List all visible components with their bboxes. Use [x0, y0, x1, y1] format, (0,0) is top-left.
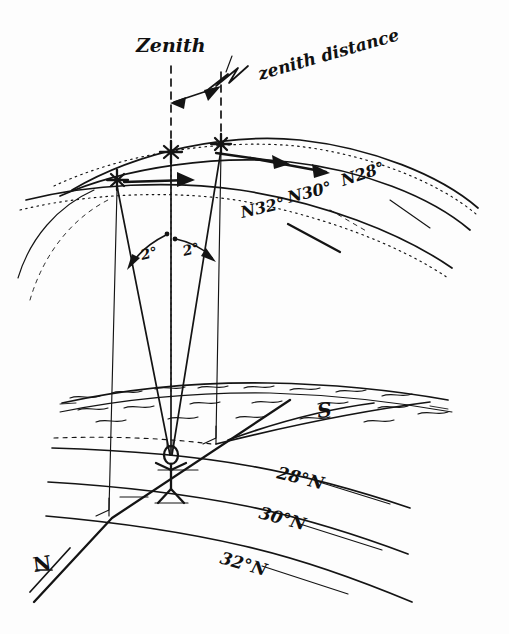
- label-declination-n28: N28°: [337, 158, 387, 190]
- label-latitude-32n: 32°N: [218, 548, 271, 581]
- motion-arrow-n28: [250, 158, 330, 178]
- south-sweep-line: [228, 403, 374, 440]
- label-angle-right: 2°: [180, 239, 201, 259]
- latitude-line-28: [52, 448, 410, 508]
- sight-line-to-star-n32: [117, 186, 170, 455]
- label-angle-left: 2°: [138, 243, 159, 263]
- diagram-canvas: Zenith zenith distance N28° N30° N32° 2°…: [0, 0, 509, 634]
- declination-arc-outer-left: [18, 190, 112, 300]
- vertical-reference-left: [96, 190, 117, 516]
- label-declination-n32: N32°: [238, 193, 287, 222]
- label-zenith: Zenith: [135, 34, 206, 56]
- arc-tail-n32: [288, 224, 340, 252]
- arc-tail-n28: [390, 200, 430, 228]
- label-zenith-distance-line1: zenith distance: [255, 24, 402, 84]
- vertical-reference-right: [203, 152, 221, 444]
- latitude-line-upper: [54, 437, 212, 444]
- label-north-compass: N: [31, 551, 52, 577]
- declination-arc-n32-lower: [20, 195, 448, 278]
- zenith-distance-leader: [205, 56, 248, 92]
- sight-line-to-star-n28: [172, 150, 221, 455]
- declination-arc-n32: [26, 185, 452, 268]
- zenith-distance-arrow: [170, 86, 221, 109]
- label-latitude-30n: 30°N: [257, 503, 310, 535]
- sketch-svg: Zenith zenith distance N28° N30° N32° 2°…: [0, 0, 509, 634]
- label-declination-n30: N30°: [284, 178, 333, 208]
- label-south-marker: S: [316, 398, 333, 423]
- label-latitude-28n: 28°N: [274, 462, 328, 494]
